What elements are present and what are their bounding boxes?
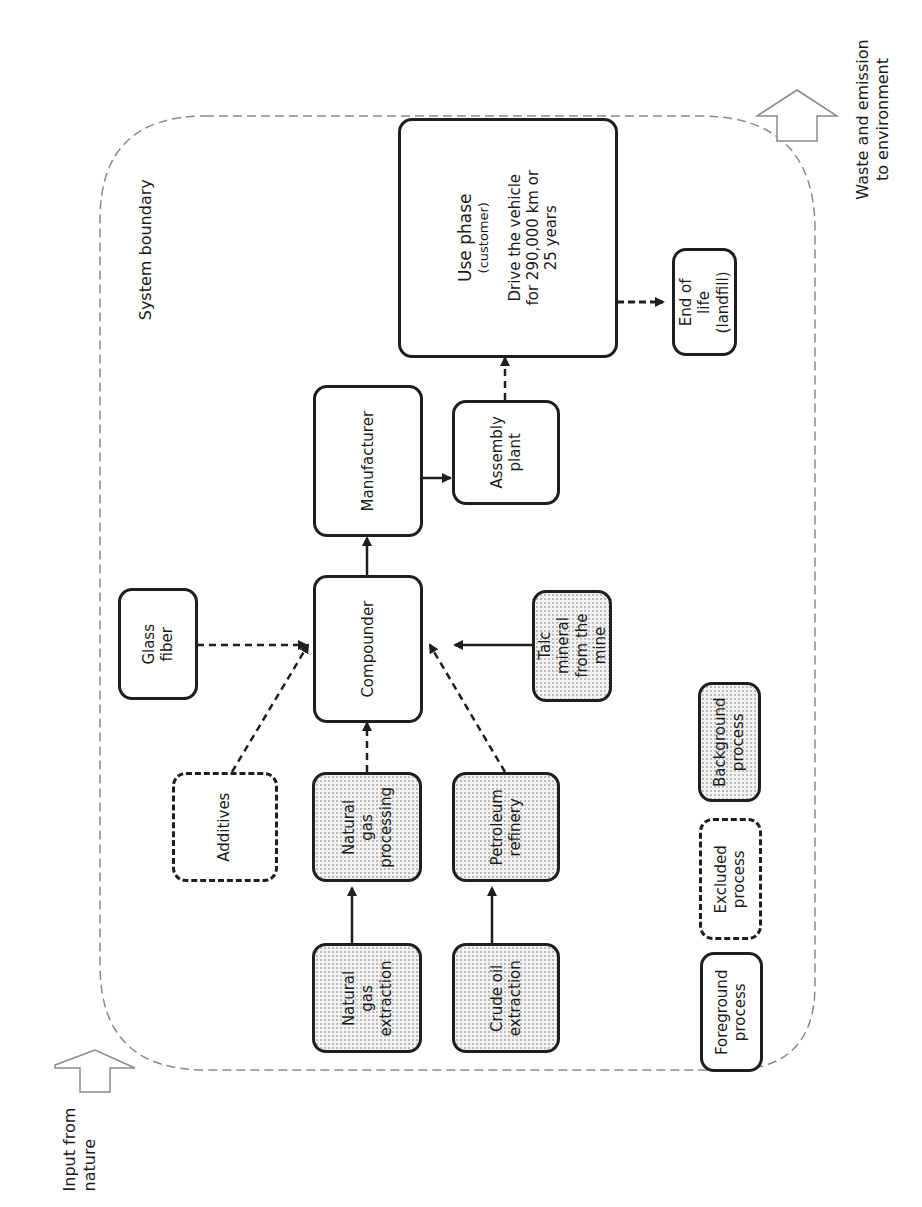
assembly-line1: Assembly xyxy=(488,416,506,488)
use-phase-line2: for 290,000 km or xyxy=(524,170,542,306)
legend-background-process: Background process xyxy=(698,682,761,802)
ng-processing-line2: gas xyxy=(358,787,376,868)
crude-line2: extraction xyxy=(506,960,524,1036)
legend-background-line2: process xyxy=(730,697,748,787)
legend-excluded-process: Excluded process xyxy=(699,818,762,940)
ng-extraction-line2: gas xyxy=(358,960,376,1036)
use-phase-title: Use phase xyxy=(455,170,476,306)
system-boundary-text: System boundary xyxy=(135,180,154,321)
waste-label-line2: to environment xyxy=(872,40,892,200)
end-of-life-line2: life xyxy=(695,271,713,333)
node-assembly-plant[interactable]: Assembly plant xyxy=(452,400,560,505)
refinery-line2: refinery xyxy=(506,789,524,865)
assembly-line2: plant xyxy=(506,416,524,488)
waste-emission-label: Waste and emission to environment xyxy=(842,20,902,220)
manufacturer-label: Manufacturer xyxy=(359,411,377,512)
node-additives[interactable]: Additives xyxy=(172,772,278,882)
legend-foreground-line1: Foreground xyxy=(713,969,731,1054)
input-label-line2: nature xyxy=(80,1108,100,1192)
compounder-label: Compounder xyxy=(359,601,377,698)
legend-excluded-line1: Excluded xyxy=(712,845,730,913)
refinery-line1: Petroleum xyxy=(488,789,506,865)
legend-foreground-process: Foreground process xyxy=(700,952,763,1072)
ng-processing-line1: Natural xyxy=(340,787,358,868)
node-natural-gas-extraction[interactable]: Natural gas extraction xyxy=(312,943,422,1053)
node-end-of-life[interactable]: End of life (landfill) xyxy=(672,248,737,356)
system-boundary-label: System boundary xyxy=(130,150,160,350)
use-phase-sub: (customer) xyxy=(476,170,492,306)
talc-line1: Talc xyxy=(535,614,553,678)
crude-line1: Crude oil xyxy=(488,960,506,1036)
waste-label-line1: Waste and emission xyxy=(852,40,872,200)
legend-background-line1: Background xyxy=(711,697,729,787)
use-phase-line3: 25 years xyxy=(542,170,560,306)
use-phase-line1: Drive the vehicle xyxy=(506,170,524,306)
end-of-life-line3: (landfill) xyxy=(714,271,732,333)
end-of-life-line1: End of xyxy=(677,271,695,333)
node-talc-mineral[interactable]: Talc mineral from the mine xyxy=(532,590,612,702)
glass-fiber-line1: Glass xyxy=(140,624,158,665)
glass-fiber-line2: fiber xyxy=(158,624,176,665)
node-manufacturer[interactable]: Manufacturer xyxy=(313,385,423,537)
ng-extraction-line1: Natural xyxy=(340,960,358,1036)
talc-line4: mine xyxy=(590,614,608,678)
node-use-phase[interactable]: Use phase (customer) Drive the vehicle f… xyxy=(398,118,618,358)
waste-arrow-icon xyxy=(757,90,837,141)
ng-extraction-line3: extraction xyxy=(376,960,394,1036)
input-from-nature-label: Input from nature xyxy=(50,1100,110,1200)
ng-processing-line3: processing xyxy=(376,787,394,868)
input-arrow-icon xyxy=(55,1050,135,1092)
node-petroleum-refinery[interactable]: Petroleum refinery xyxy=(452,772,560,882)
node-glass-fiber[interactable]: Glass fiber xyxy=(118,588,198,700)
node-compounder[interactable]: Compounder xyxy=(313,575,423,723)
talc-line3: from the xyxy=(572,614,590,678)
node-crude-oil-extraction[interactable]: Crude oil extraction xyxy=(452,943,560,1053)
legend-excluded-line2: process xyxy=(731,845,749,913)
input-label-line1: Input from xyxy=(60,1108,80,1192)
talc-line2: mineral xyxy=(554,614,572,678)
node-natural-gas-processing[interactable]: Natural gas processing xyxy=(312,772,422,882)
additives-label: Additives xyxy=(216,792,234,861)
legend-foreground-line2: process xyxy=(732,969,750,1054)
